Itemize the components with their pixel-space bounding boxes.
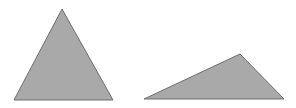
obtuse-triangle	[144, 54, 284, 99]
triangles-diagram	[0, 0, 296, 108]
acute-triangle	[14, 9, 113, 100]
